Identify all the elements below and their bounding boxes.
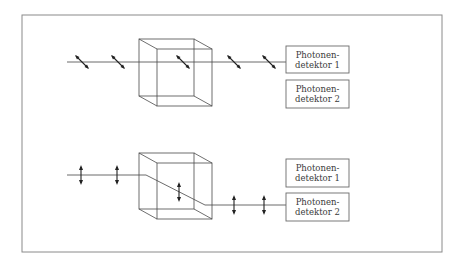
label-line: Photonen-: [286, 163, 349, 173]
diagram-canvas: [0, 0, 461, 264]
top-cube: [139, 39, 212, 106]
bottom-detector-1-label: Photonen- detektor 1: [286, 163, 349, 183]
label-line: Photonen-: [286, 197, 349, 207]
bottom-beam: [67, 175, 286, 205]
top-detector-1-label: Photonen- detektor 1: [286, 50, 349, 70]
label-line: Photonen-: [286, 84, 349, 94]
label-line: Photonen-: [286, 50, 349, 60]
label-line: detektor 2: [286, 94, 349, 104]
outer-frame: [22, 15, 442, 252]
label-line: detektor 2: [286, 207, 349, 217]
top-detector-2-label: Photonen- detektor 2: [286, 84, 349, 104]
bottom-detector-2-label: Photonen- detektor 2: [286, 197, 349, 217]
label-line: detektor 1: [286, 60, 349, 70]
label-line: detektor 1: [286, 173, 349, 183]
bottom-cube: [139, 153, 212, 219]
